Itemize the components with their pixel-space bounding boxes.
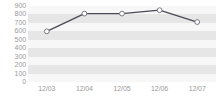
data-point-marker[interactable] <box>82 11 87 16</box>
data-point-marker[interactable] <box>44 29 49 34</box>
x-tick-label: 12/06 <box>151 85 168 93</box>
y-tick-label: 100 <box>0 70 26 77</box>
x-axis: 12/0312/0412/0512/0612/07 <box>28 85 216 99</box>
line-chart: 9008007006005004003002001000 12/0312/041… <box>0 0 216 99</box>
y-tick-label: 400 <box>0 44 26 51</box>
y-tick-label: 300 <box>0 53 26 60</box>
x-tick-label: 12/04 <box>76 85 93 93</box>
x-tick-label: 12/07 <box>189 85 206 93</box>
x-tick-label: 12/03 <box>38 85 55 93</box>
y-tick-label: 600 <box>0 27 26 34</box>
series-line-group <box>28 6 216 82</box>
data-point-marker[interactable] <box>157 8 162 13</box>
y-tick-label: 900 <box>0 2 26 9</box>
y-tick-label: 0 <box>0 78 26 85</box>
data-point-marker[interactable] <box>195 20 200 25</box>
y-tick-label: 800 <box>0 10 26 17</box>
data-point-marker[interactable] <box>120 11 125 16</box>
y-tick-label: 200 <box>0 61 26 68</box>
plot-area <box>28 6 216 82</box>
y-axis: 9008007006005004003002001000 <box>0 0 26 82</box>
y-tick-label: 500 <box>0 36 26 43</box>
x-tick-label: 12/05 <box>113 85 130 93</box>
y-tick-label: 700 <box>0 19 26 26</box>
